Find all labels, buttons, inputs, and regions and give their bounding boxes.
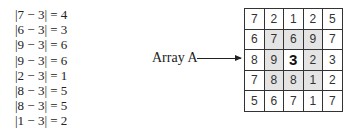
array-grid: 7 2 1 2 5 6 7 6 9 7 8 9 3 2 3 7 8 8 1 2 … <box>244 8 343 112</box>
grid-cell: 1 <box>284 9 304 30</box>
neighbor-cell: 2 <box>303 50 323 71</box>
grid-cell: 8 <box>245 50 265 71</box>
equation: |9 − 3| = 6 <box>15 53 67 68</box>
array-label: Array A <box>152 50 198 66</box>
grid-cell: 7 <box>284 91 304 112</box>
grid-cell: 7 <box>245 70 265 91</box>
equation: |8 − 3| = 5 <box>15 98 67 113</box>
grid-cell: 2 <box>303 9 323 30</box>
grid-cell: 7 <box>245 9 265 30</box>
neighbor-cell: 7 <box>264 29 284 50</box>
grid-row: 6 7 6 9 7 <box>245 29 343 50</box>
neighbor-cell: 9 <box>264 50 284 71</box>
grid-cell: 2 <box>323 70 343 91</box>
equation: |2 − 3| = 1 <box>15 68 67 83</box>
arrow-right-icon <box>197 58 241 59</box>
neighbor-cell: 6 <box>284 29 304 50</box>
neighbor-cell: 1 <box>303 70 323 91</box>
equation: |8 − 3| = 5 <box>15 83 67 98</box>
equation-list: |7 − 3| = 4 |6 − 3| = 3 |9 − 3| = 6 |9 −… <box>15 7 67 129</box>
grid-row: 5 6 7 1 7 <box>245 91 343 112</box>
neighbor-cell: 8 <box>284 70 304 91</box>
equation: |6 − 3| = 3 <box>15 22 67 37</box>
grid-cell: 7 <box>323 91 343 112</box>
grid-row: 7 2 1 2 5 <box>245 9 343 30</box>
grid-cell: 2 <box>264 9 284 30</box>
grid-cell: 6 <box>245 29 265 50</box>
equation: |7 − 3| = 4 <box>15 7 67 22</box>
grid-cell: 7 <box>323 29 343 50</box>
equation: |9 − 3| = 6 <box>15 37 67 52</box>
grid-cell: 6 <box>264 91 284 112</box>
equation: |1 − 3| = 2 <box>15 113 67 128</box>
center-cell: 3 <box>284 50 304 71</box>
grid-cell: 5 <box>323 9 343 30</box>
grid-row: 8 9 3 2 3 <box>245 50 343 71</box>
grid-cell: 3 <box>323 50 343 71</box>
neighbor-cell: 8 <box>264 70 284 91</box>
grid-cell: 5 <box>245 91 265 112</box>
grid-row: 7 8 8 1 2 <box>245 70 343 91</box>
neighbor-cell: 9 <box>303 29 323 50</box>
grid-cell: 1 <box>303 91 323 112</box>
